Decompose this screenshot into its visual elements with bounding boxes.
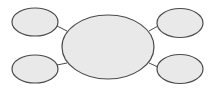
bubble-top-left bbox=[12, 8, 58, 36]
bubble-map-diagram bbox=[0, 0, 217, 92]
connector-bottom-left bbox=[57, 63, 67, 65]
bubble-top-right bbox=[157, 9, 203, 38]
center-bubble bbox=[62, 15, 154, 79]
bubble-bottom-right bbox=[157, 55, 203, 84]
connector-top-left bbox=[57, 26, 67, 31]
connector-top-right bbox=[149, 26, 158, 31]
bubble-bottom-left bbox=[12, 55, 58, 83]
connector-bottom-right bbox=[149, 63, 158, 67]
